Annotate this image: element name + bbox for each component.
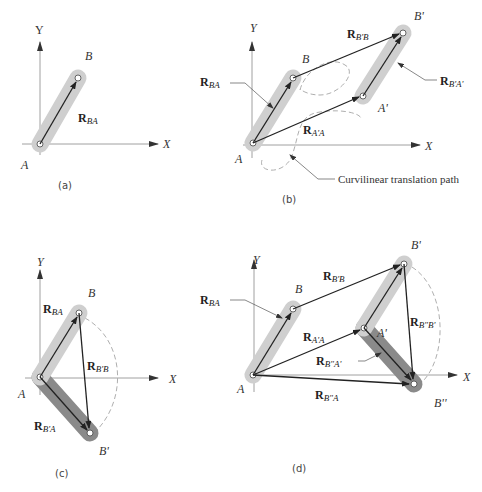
leader-r-ba <box>230 83 273 108</box>
point-b-double-prime-label: B'' <box>434 396 447 410</box>
caption-b: (b) <box>282 194 296 205</box>
y-axis-label: Y <box>250 21 258 35</box>
rotation-arc <box>85 318 118 432</box>
curvilinear-path-note: Curvilinear translation path <box>338 173 459 185</box>
x-axis-label: X <box>424 139 433 153</box>
vector-label-r-b-double-prime-b-prime: RB''B' <box>410 315 437 330</box>
panel-d: Y B B' RB'B RBA RA'A A' RB''B' RB''A' A … <box>200 238 471 474</box>
y-axis-label: Y <box>37 255 45 269</box>
vector-label-r-b-prime-b: RB'B <box>323 269 345 284</box>
vector-label-r-b-prime-b: RB'B <box>347 27 369 42</box>
vector-label-r-a-prime-a: RA'A <box>303 330 325 345</box>
leader-curvilinear <box>290 155 335 179</box>
pin-b-double-prime <box>411 381 417 387</box>
pin-b-prime <box>87 430 93 436</box>
pin-b-prime <box>400 30 406 36</box>
point-a-prime-label: A' <box>376 326 387 340</box>
point-b-prime-label: B' <box>411 238 421 252</box>
translation-path-b <box>300 62 349 95</box>
vector-r-b-double-prime-a <box>253 375 409 384</box>
pin-b <box>75 75 81 81</box>
vector-r-ba <box>253 313 291 375</box>
vector-r-ba <box>253 82 291 143</box>
point-a-label: A <box>20 158 29 172</box>
vector-label-r-b-prime-b: RB'B <box>87 359 109 374</box>
point-b-label: B <box>295 282 303 296</box>
kinematics-figure: Y B RBA A X (a) Y B B' RB'B RBA RB'A' A' <box>0 0 482 492</box>
y-axis-label: Y <box>253 253 261 267</box>
vector-r-ba <box>40 82 76 144</box>
leader-r-ba <box>230 300 282 318</box>
vector-r-b-prime-a <box>40 377 87 430</box>
panel-b: Y B B' RB'B RBA RB'A' A' RA'A A X Curvil… <box>200 9 465 205</box>
point-a-prime-label: A' <box>377 101 388 115</box>
vector-label-r-ba: RBA <box>200 75 220 90</box>
point-b-label: B <box>88 286 96 300</box>
vector-label-r-ba: RBA <box>43 302 63 317</box>
vector-label-r-b-double-prime-a: RB''A <box>315 388 339 403</box>
vector-label-r-ba: RBA <box>78 111 98 126</box>
vector-r-b-prime-a-prime <box>363 37 401 96</box>
leader-r-b-prime-a-prime <box>398 63 437 80</box>
vector-label-r-b-prime-a-prime: RB'A' <box>440 74 465 89</box>
vector-label-r-b-double-prime-a-prime: RB''A' <box>316 354 343 369</box>
x-axis-label: X <box>462 370 471 384</box>
point-a-label: A <box>236 382 245 396</box>
point-a-label: A <box>17 387 26 401</box>
caption-a: (a) <box>58 180 72 191</box>
vector-label-r-a-prime-a: RA'A <box>303 123 325 138</box>
y-axis-label: Y <box>35 23 44 37</box>
point-b-prime-label: B' <box>414 9 424 23</box>
caption-d: (d) <box>292 463 306 474</box>
panel-c: Y B RBA RB'B A X RB'A B' (c) <box>17 255 177 479</box>
x-axis-label: X <box>162 137 171 151</box>
point-b-label: B <box>302 52 310 66</box>
point-a-label: A <box>234 152 243 166</box>
vector-label-r-ba: RBA <box>200 293 220 308</box>
vector-r-b-double-prime-a-prime <box>364 328 411 380</box>
caption-c: (c) <box>55 468 68 479</box>
point-b-prime-label: B' <box>99 444 109 458</box>
vector-r-ba <box>40 317 77 377</box>
x-axis-label: X <box>168 372 177 386</box>
point-b-label: B <box>85 49 93 63</box>
panel-a: Y B RBA A X (a) <box>20 23 171 191</box>
vector-label-r-b-prime-a: RB'A <box>34 419 56 434</box>
